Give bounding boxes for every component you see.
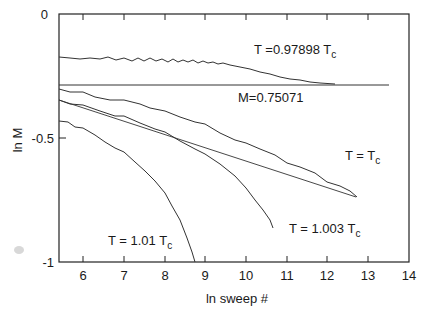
annotation-m-0.75071: M=0.75071 [238,90,303,105]
x-axis-label: ln sweep # [206,291,269,306]
x-tick-14: 14 [402,268,416,283]
x-tick-10: 10 [239,268,253,283]
annotation-t-tc: T = Tc [345,148,380,166]
chart: 0 -0.5 -1 ln M 6 7 8 9 10 11 12 13 14 ln… [0,0,431,313]
x-tick-11: 11 [280,268,294,283]
scan-blot [14,246,24,254]
x-tick-12: 12 [320,268,334,283]
y-tick-0: 0 [41,7,48,22]
y-tick-neg1: -1 [42,255,54,270]
line-fit-tc [59,100,356,197]
x-tick-6: 6 [79,268,86,283]
x-tick-13: 13 [361,268,375,283]
x-tick-8: 8 [161,268,168,283]
y-tick-neg0.5: -0.5 [32,131,54,146]
curve-t-1.003tc [59,100,273,228]
curve-t-tc [59,89,357,197]
plot-frame [59,14,409,262]
annotation-t-0.97898: T =0.97898 Tc [254,42,336,60]
y-axis-label: ln M [10,128,25,153]
annotation-t-1.003tc: T = 1.003 Tc [289,221,360,239]
curve-t-0.97898tc [59,57,335,84]
x-tick-7: 7 [120,268,127,283]
x-tick-9: 9 [201,268,208,283]
annotation-t-1.01tc: T = 1.01 Tc [108,233,172,251]
